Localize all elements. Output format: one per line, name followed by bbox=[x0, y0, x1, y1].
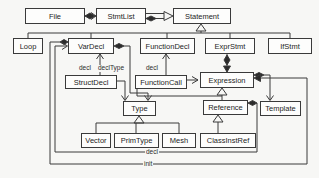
ast-class-diagram: File StmtList Statement Loop VarDecl Fun… bbox=[0, 0, 319, 178]
node-exprstmt: ExprStmt bbox=[205, 38, 255, 54]
node-functioncall: FunctionCall bbox=[135, 75, 187, 89]
label-structdecl-decl: decl bbox=[78, 65, 92, 72]
edge-expression-subclasses bbox=[137, 88, 227, 100]
node-reference: Reference bbox=[203, 100, 248, 115]
label-vardecl-decltype: declType bbox=[97, 65, 125, 72]
node-template: Template bbox=[260, 101, 301, 116]
node-file: File bbox=[25, 8, 85, 24]
edge-type-subclasses bbox=[96, 116, 179, 133]
edge-file-stmtlist bbox=[85, 13, 96, 20]
node-functiondecl: FunctionDecl bbox=[140, 38, 195, 54]
node-stmtlist: StmtList bbox=[96, 8, 146, 24]
edge-functioncall-functiondecl bbox=[163, 54, 170, 75]
edge-exprstmt-expression bbox=[224, 54, 231, 72]
node-mesh: Mesh bbox=[162, 133, 196, 148]
edges-layer bbox=[0, 0, 319, 178]
edge-statement-subclasses bbox=[28, 24, 290, 38]
node-statement: Statement bbox=[173, 8, 231, 24]
node-ifstmt: IfStmt bbox=[268, 38, 312, 54]
label-functioncall-decl: decl bbox=[145, 65, 159, 72]
node-expression: Expression bbox=[200, 72, 254, 88]
edge-classinstref-reference bbox=[213, 115, 223, 133]
edge-structdecl-type bbox=[117, 81, 129, 101]
node-vector: Vector bbox=[81, 133, 111, 148]
node-structdecl: StructDecl bbox=[65, 75, 117, 89]
node-loop: Loop bbox=[13, 38, 43, 54]
node-type: Type bbox=[123, 101, 156, 116]
edge-stmtlist-statement bbox=[146, 12, 173, 22]
label-reference-decl: decl bbox=[145, 149, 159, 156]
edge-functioncall-expression bbox=[187, 77, 198, 84]
node-primtype: PrimType bbox=[114, 133, 159, 148]
node-vardecl: VarDecl bbox=[68, 38, 114, 54]
node-classinstref: ClassInstRef bbox=[200, 133, 256, 148]
label-vardecl-init: init bbox=[143, 161, 153, 168]
